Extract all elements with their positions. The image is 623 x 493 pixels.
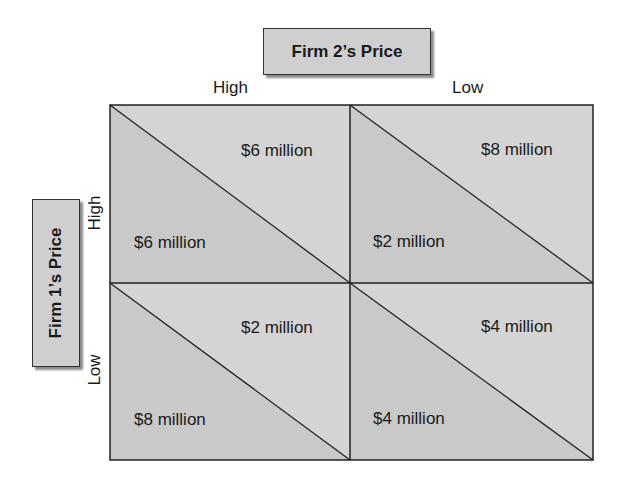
payoff-firm2-low-high: $2 million: [241, 318, 313, 338]
payoff-matrix-grid: [0, 0, 623, 493]
payoff-firm2-high-low: $8 million: [481, 140, 553, 160]
payoff-firm1-low-low: $4 million: [373, 409, 445, 429]
payoff-firm2-low-low: $4 million: [481, 317, 553, 337]
payoff-firm2-high-high: $6 million: [241, 141, 313, 161]
payoff-firm1-low-high: $8 million: [134, 410, 206, 430]
payoff-firm1-high-high: $6 million: [134, 233, 206, 253]
payoff-firm1-high-low: $2 million: [373, 232, 445, 252]
